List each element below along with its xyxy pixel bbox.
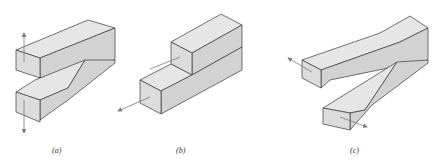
panel-c-tearing-mode: (c) <box>288 16 428 155</box>
panel-c-label: (c) <box>350 146 359 155</box>
panel-a-opening-mode: (a) <box>16 20 115 155</box>
panel-a-label: (a) <box>52 146 62 155</box>
fracture-modes-diagram: (a) (b) (c) <box>0 0 434 166</box>
panel-b-label: (b) <box>176 146 186 155</box>
panel-b-sliding-mode: (b) <box>118 14 242 155</box>
